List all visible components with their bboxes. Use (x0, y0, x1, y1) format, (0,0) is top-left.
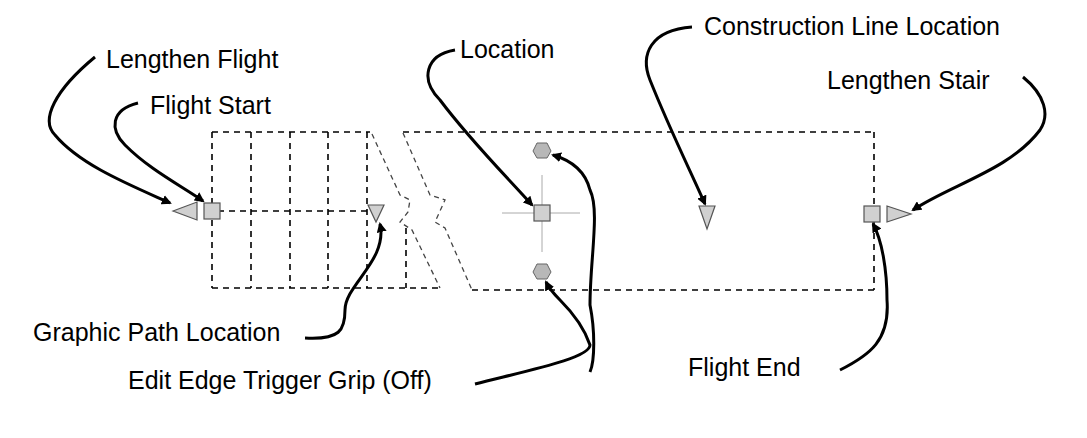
construction-line-location-grip-icon[interactable] (699, 206, 715, 229)
label-construction-line-location: Construction Line Location (704, 14, 1000, 39)
label-lengthen-stair: Lengthen Stair (827, 68, 990, 93)
flight-end-grip-icon[interactable] (864, 206, 880, 222)
graphic-path-location-grip-icon[interactable] (368, 205, 384, 222)
label-edit-edge-trigger-grip: Edit Edge Trigger Grip (Off) (128, 368, 432, 393)
edit-edge-trigger-grip-bottom-icon[interactable] (533, 264, 551, 279)
label-graphic-path-location: Graphic Path Location (33, 320, 280, 345)
label-flight-start: Flight Start (150, 93, 271, 118)
flight-start-grip-icon[interactable] (204, 203, 220, 219)
label-lengthen-flight: Lengthen Flight (106, 47, 278, 72)
lengthen-stair-grip-icon[interactable] (887, 206, 911, 222)
label-flight-end: Flight End (688, 355, 801, 380)
location-grip-icon[interactable] (534, 205, 550, 221)
label-location: Location (460, 37, 555, 62)
lengthen-flight-grip-icon[interactable] (173, 202, 197, 220)
break-lines (372, 133, 472, 290)
stair-grips-diagram: Lengthen Flight Flight Start Location Co… (0, 0, 1087, 438)
edit-edge-trigger-grip-top-icon[interactable] (533, 143, 551, 158)
